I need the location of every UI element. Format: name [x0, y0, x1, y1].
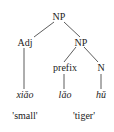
gloss-tiger: 'tiger'	[73, 111, 95, 121]
np-node: NP	[75, 38, 88, 48]
n-node: N	[97, 63, 104, 73]
word-xiao: xiǎo	[16, 90, 33, 100]
adj-node: Adj	[18, 38, 33, 48]
word-lao: lǎo	[59, 90, 72, 100]
gloss-small: 'small'	[12, 111, 37, 121]
root-np-node: NP	[53, 12, 66, 22]
prefix-node: prefix	[53, 63, 77, 73]
word-hu: hǔ	[96, 90, 106, 100]
